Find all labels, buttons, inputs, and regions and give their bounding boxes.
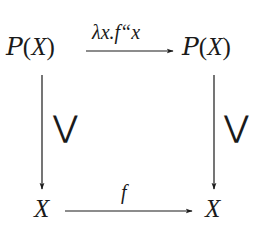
powerset-symbol: P (6, 32, 23, 61)
var-x: X (205, 195, 220, 222)
var-x: X (34, 195, 49, 222)
left-arrow-join-label: ⋁ (53, 112, 78, 142)
var-x: X (31, 33, 46, 60)
node-bottom-right-x: X (205, 196, 220, 221)
commutative-diagram: P(X) P(X) X X λx.f“x f ⋁ ⋁ (0, 0, 265, 230)
node-top-right-powerset: P(X) (182, 34, 231, 59)
node-bottom-left-x: X (34, 196, 49, 221)
right-arrow-join-label: ⋁ (224, 112, 249, 142)
node-top-left-powerset: P(X) (6, 34, 55, 59)
bottom-arrow-label: f (121, 182, 127, 202)
powerset-symbol: P (182, 32, 199, 61)
var-x: X (207, 33, 222, 60)
top-arrow-label: λx.f“x (92, 22, 140, 42)
